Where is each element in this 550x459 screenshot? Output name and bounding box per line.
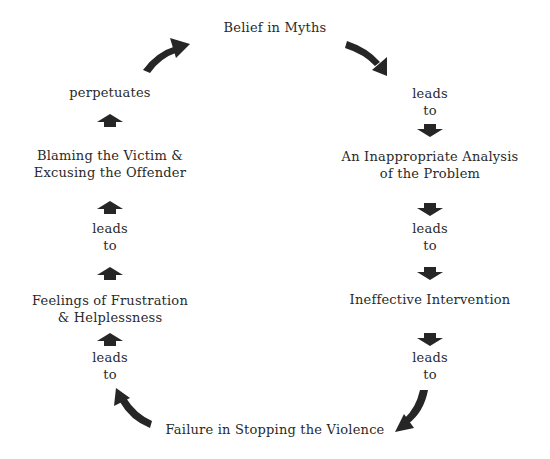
node-belief-in-myths: Belief in Myths bbox=[200, 19, 350, 36]
down-arrow-icon-1 bbox=[417, 124, 443, 137]
connector-right-1-line2: to bbox=[400, 102, 460, 119]
connector-right-1: leads to bbox=[400, 85, 460, 119]
down-arrow-icon-4 bbox=[417, 333, 443, 346]
node-blaming-victim-line2: Excusing the Offender bbox=[10, 164, 210, 181]
node-inappropriate-analysis-line2: of the Problem bbox=[330, 165, 530, 182]
down-arrow-icon-2 bbox=[417, 203, 443, 216]
connector-left-1-line2: to bbox=[80, 237, 140, 254]
connector-right-1-line1: leads bbox=[400, 85, 460, 102]
connector-left-1: leads to bbox=[80, 220, 140, 254]
connector-right-3: leads to bbox=[400, 349, 460, 383]
node-inappropriate-analysis-line1: An Inappropriate Analysis bbox=[330, 148, 530, 165]
up-arrow-icon-4 bbox=[97, 333, 123, 346]
node-feelings-frustration-line1: Feelings of Frustration bbox=[5, 292, 215, 309]
connector-left-1-line1: leads bbox=[80, 220, 140, 237]
connector-right-3-line2: to bbox=[400, 366, 460, 383]
curved-arrow-top-left-icon bbox=[143, 38, 190, 73]
node-blaming-victim: Blaming the Victim & Excusing the Offend… bbox=[10, 147, 210, 181]
connector-right-3-line1: leads bbox=[400, 349, 460, 366]
up-arrow-icon-3 bbox=[97, 267, 123, 280]
connector-left-2-line1: leads bbox=[80, 349, 140, 366]
up-arrow-icon-1 bbox=[97, 114, 123, 127]
node-feelings-frustration-line2: & Helplessness bbox=[5, 309, 215, 326]
connector-right-2: leads to bbox=[400, 220, 460, 254]
connector-right-2-line2: to bbox=[400, 237, 460, 254]
down-arrow-icon-3 bbox=[417, 267, 443, 280]
node-blaming-victim-line1: Blaming the Victim & bbox=[10, 147, 210, 164]
connector-left-2-line2: to bbox=[80, 366, 140, 383]
node-failure-stopping-violence: Failure in Stopping the Violence bbox=[150, 421, 400, 438]
up-arrow-icon-2 bbox=[97, 201, 123, 214]
curved-arrow-bottom-left-icon bbox=[114, 388, 152, 428]
node-feelings-frustration: Feelings of Frustration & Helplessness bbox=[5, 292, 215, 326]
node-ineffective-intervention: Ineffective Intervention bbox=[335, 291, 525, 308]
curved-arrow-top-right-icon bbox=[345, 41, 387, 76]
node-inappropriate-analysis: An Inappropriate Analysis of the Problem bbox=[330, 148, 530, 182]
connector-left-2: leads to bbox=[80, 349, 140, 383]
connector-perpetuates: perpetuates bbox=[55, 84, 165, 101]
connector-right-2-line1: leads bbox=[400, 220, 460, 237]
